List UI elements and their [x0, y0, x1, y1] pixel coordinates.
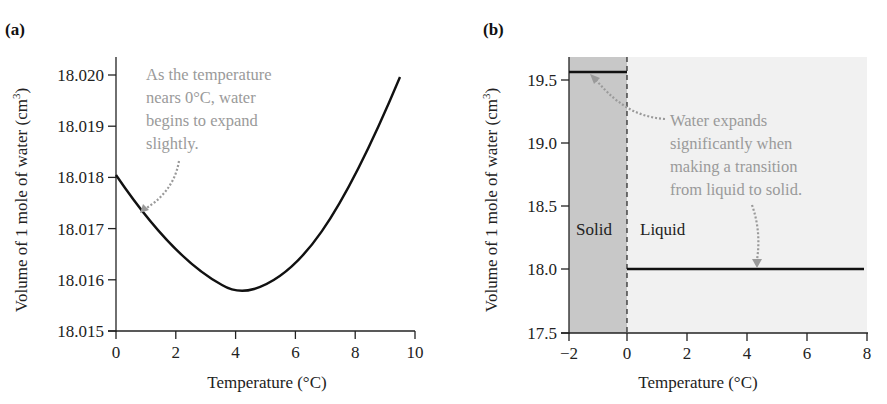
- x-tick-label: 6: [291, 343, 300, 362]
- x-tick-label: 8: [863, 344, 872, 363]
- panel-b-y-tick-labels: 17.5 18.0 18.5 19.0 19.5: [527, 71, 557, 343]
- panel-b: (b) Volume of 1 mole of water (cm3) 17.5…: [480, 20, 871, 392]
- panel-b-x-axis-title: Temperature (°C): [638, 373, 757, 392]
- panel-a-x-ticks: [116, 331, 415, 339]
- figure: (a) Volume of 1 mole of water (cm3) 18.0…: [0, 0, 887, 404]
- y-tick-label: 19.5: [527, 71, 557, 90]
- x-tick-label: −2: [560, 344, 578, 363]
- x-tick-label: 8: [351, 343, 360, 362]
- x-tick-label: 4: [743, 344, 752, 363]
- panel-a-y-tick-labels: 18.015 18.016 18.017 18.018 18.019 18.02…: [57, 66, 104, 341]
- y-tick-label: 18.0: [527, 260, 557, 279]
- panel-b-x-ticks: [569, 333, 867, 341]
- annotation-line: nears 0°C, water: [146, 88, 256, 107]
- panel-a: (a) Volume of 1 mole of water (cm3) 18.0…: [5, 20, 424, 392]
- annotation-line: begins to expand: [146, 111, 259, 130]
- x-tick-label: 2: [683, 344, 692, 363]
- panel-b-label: (b): [483, 20, 504, 39]
- panel-a-y-ticks: [108, 75, 116, 331]
- annotation-line: As the temperature: [146, 65, 272, 84]
- solid-label: Solid: [576, 220, 612, 239]
- y-tick-label: 18.015: [57, 322, 104, 341]
- x-tick-label: 4: [231, 343, 240, 362]
- panel-b-y-axis-title: Volume of 1 mole of water (cm3): [480, 88, 501, 312]
- y-tick-label: 18.018: [57, 168, 104, 187]
- panel-a-x-tick-labels: 0 2 4 6 8 10: [112, 343, 424, 362]
- annotation-line: Water expands: [670, 111, 767, 130]
- annotation-line: slightly.: [146, 134, 199, 153]
- y-tick-label: 18.020: [57, 66, 104, 85]
- panel-a-volume-curve: [116, 77, 400, 291]
- panel-a-x-axis-title: Temperature (°C): [207, 373, 326, 392]
- annotation-line: making a transition: [670, 157, 797, 176]
- annotation-line: significantly when: [670, 134, 792, 153]
- panel-a-y-axis-title: Volume of 1 mole of water (cm3): [10, 88, 31, 312]
- panel-a-label: (a): [5, 20, 25, 39]
- x-tick-label: 0: [623, 344, 632, 363]
- arrow-icon: [145, 161, 179, 209]
- y-tick-label: 17.5: [527, 324, 557, 343]
- solid-region: [569, 57, 627, 333]
- y-tick-label: 18.016: [57, 271, 104, 290]
- x-tick-label: 6: [803, 344, 812, 363]
- y-tick-label: 19.0: [527, 134, 557, 153]
- x-tick-label: 2: [172, 343, 181, 362]
- annotation-line: from liquid to solid.: [670, 180, 802, 199]
- panel-b-y-ticks: [561, 80, 569, 333]
- x-tick-label: 10: [407, 343, 424, 362]
- panel-a-annotation: As the temperature nears 0°C, water begi…: [140, 65, 272, 213]
- y-tick-label: 18.5: [527, 197, 557, 216]
- y-tick-label: 18.019: [57, 117, 104, 136]
- liquid-label: Liquid: [640, 220, 686, 239]
- panel-b-x-tick-labels: −2 0 2 4 6 8: [560, 344, 871, 363]
- x-tick-label: 0: [112, 343, 121, 362]
- y-tick-label: 18.017: [57, 220, 104, 239]
